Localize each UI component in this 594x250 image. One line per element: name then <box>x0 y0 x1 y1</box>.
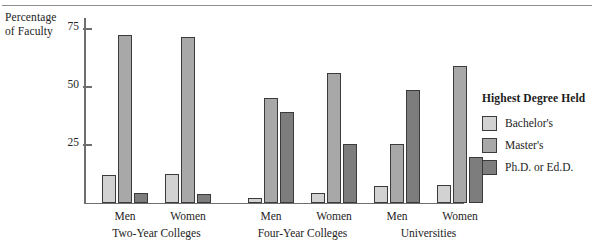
plot-area: 755025 <box>84 18 464 204</box>
bar-masters[interactable] <box>327 73 341 203</box>
legend-item-label: Master's <box>505 139 543 151</box>
legend-item[interactable]: Bachelor's <box>482 112 592 134</box>
bar-phd[interactable] <box>197 194 211 202</box>
y-tick-label: 75 <box>68 20 80 32</box>
x-sublabel-men: Men <box>367 210 427 222</box>
bar-masters[interactable] <box>264 98 278 202</box>
legend: Highest Degree Held Bachelor'sMaster'sPh… <box>482 92 592 178</box>
legend-item[interactable]: Ph.D. or Ed.D. <box>482 156 592 178</box>
x-axis-line <box>84 203 464 205</box>
y-tick-mark <box>83 86 92 87</box>
bar-bachelors[interactable] <box>311 193 325 202</box>
bar-bachelors[interactable] <box>248 198 262 203</box>
bar-phd[interactable] <box>469 157 483 202</box>
bar-phd[interactable] <box>406 90 420 203</box>
y-tick-label: 25 <box>68 136 80 148</box>
x-sublabel-men: Men <box>241 210 301 222</box>
y-axis-line <box>84 18 86 204</box>
legend-items: Bachelor'sMaster'sPh.D. or Ed.D. <box>482 112 592 178</box>
bar-phd[interactable] <box>280 112 294 203</box>
y-axis-title: Percentage of Faculty <box>5 11 67 38</box>
bar-bachelors[interactable] <box>102 175 116 203</box>
legend-swatch-icon <box>482 160 497 175</box>
y-tick-mark <box>83 144 92 145</box>
x-group-label: Four-Year Colleges <box>233 227 373 239</box>
top-divider-rule <box>2 5 592 6</box>
bar-bachelors[interactable] <box>437 185 451 202</box>
legend-swatch-icon <box>482 138 497 153</box>
x-group-label: Two-Year Colleges <box>87 227 227 239</box>
bar-masters[interactable] <box>181 37 195 203</box>
legend-item-label: Bachelor's <box>505 117 553 129</box>
x-sublabel-women: Women <box>430 210 490 222</box>
x-sublabel-women: Women <box>158 210 218 222</box>
legend-item[interactable]: Master's <box>482 134 592 156</box>
bar-phd[interactable] <box>134 193 148 202</box>
y-tick-mark <box>83 28 92 29</box>
bar-chart-figure: Percentage of Faculty 755025 MenWomenTwo… <box>0 0 594 250</box>
bar-masters[interactable] <box>118 35 132 202</box>
bar-bachelors[interactable] <box>165 174 179 203</box>
y-axis-title-line2: of Faculty <box>5 25 67 39</box>
bar-masters[interactable] <box>390 144 404 202</box>
legend-swatch-icon <box>482 116 497 131</box>
bar-phd[interactable] <box>343 144 357 202</box>
legend-item-label: Ph.D. or Ed.D. <box>505 161 573 173</box>
x-sublabel-women: Women <box>304 210 364 222</box>
bar-bachelors[interactable] <box>374 186 388 202</box>
y-tick-label: 50 <box>68 78 80 90</box>
y-axis-title-line1: Percentage <box>5 11 67 25</box>
legend-title: Highest Degree Held <box>482 92 592 104</box>
x-group-label: Universities <box>359 227 499 239</box>
bar-masters[interactable] <box>453 66 467 203</box>
x-sublabel-men: Men <box>95 210 155 222</box>
